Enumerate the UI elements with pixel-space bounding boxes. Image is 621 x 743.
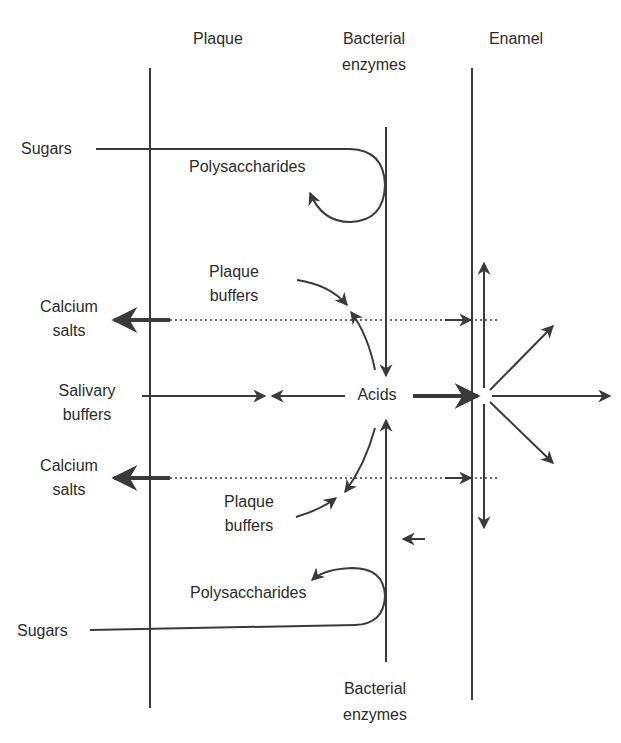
- label-calcium-salts-top-line1: Calcium: [40, 297, 98, 317]
- label-plaque-buffers-bottom-line1: Plaque: [224, 492, 274, 512]
- label-acids: Acids: [357, 385, 396, 405]
- label-sugars-top: Sugars: [21, 139, 72, 159]
- column-header-bacterial-enzymes-line1: Bacterial: [343, 29, 405, 49]
- label-polysaccharides-top: Polysaccharides: [189, 157, 306, 177]
- burst-up-right-arrow: [490, 326, 553, 390]
- label-salivary-buffers-line2: buffers: [63, 405, 112, 425]
- label-calcium-salts-bottom-line2: salts: [53, 480, 86, 500]
- label-plaque-buffers-bottom-line2: buffers: [225, 516, 274, 536]
- label-plaque-buffers-top-line1: Plaque: [209, 262, 259, 282]
- column-footer-bacterial-enzymes-line1: Bacterial: [344, 679, 406, 699]
- plaque-buffers-top-arrow: [297, 280, 347, 305]
- column-footer-bacterial-enzymes-line2: enzymes: [343, 705, 407, 725]
- acids-to-buffer-bottom-arrow: [345, 428, 375, 492]
- column-header-plaque: Plaque: [193, 29, 243, 49]
- caries-process-diagram: Plaque Bacterial enzymes Enamel Sugars P…: [0, 0, 621, 743]
- label-calcium-salts-bottom-line1: Calcium: [40, 456, 98, 476]
- label-calcium-salts-top-line2: salts: [53, 321, 86, 341]
- plaque-buffers-bottom-arrow: [296, 498, 336, 517]
- column-header-enamel: Enamel: [489, 29, 543, 49]
- column-header-bacterial-enzymes-line2: enzymes: [342, 55, 406, 75]
- label-polysaccharides-bottom: Polysaccharides: [190, 583, 307, 603]
- label-plaque-buffers-top-line2: buffers: [210, 286, 259, 306]
- diagram-graphics: [0, 0, 621, 743]
- burst-down-right-arrow: [490, 402, 553, 463]
- label-sugars-bottom: Sugars: [17, 621, 68, 641]
- label-salivary-buffers-line1: Salivary: [59, 381, 116, 401]
